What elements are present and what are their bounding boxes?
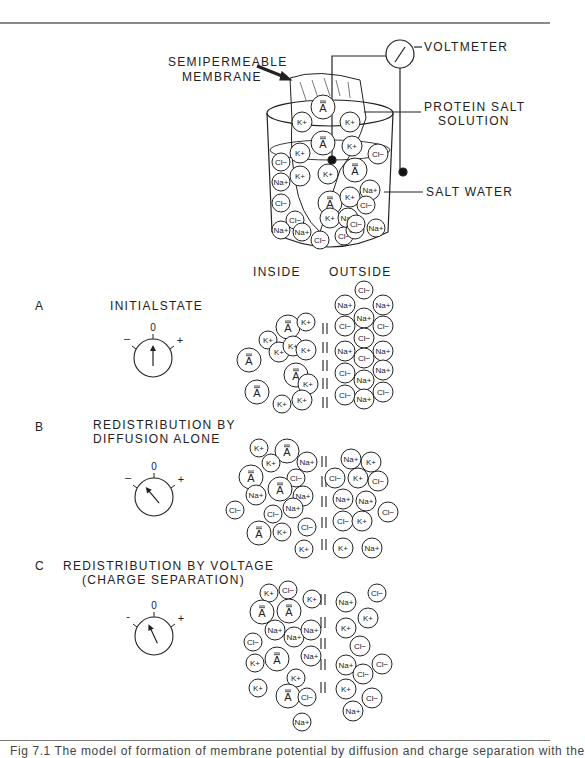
ion-k: K+ <box>336 679 356 699</box>
svg-text:Na+: Na+ <box>338 301 353 310</box>
svg-text:K+: K+ <box>291 674 301 683</box>
svg-text:Na+: Na+ <box>339 661 354 670</box>
voltmeter-needle <box>395 47 405 62</box>
svg-text:Cl−: Cl− <box>275 158 288 167</box>
svg-text:Na+: Na+ <box>338 347 353 356</box>
svg-text:K+: K+ <box>325 214 335 223</box>
svg-text:Cl−: Cl− <box>371 589 384 598</box>
svg-text:A: A <box>273 654 281 666</box>
ion-k: K+ <box>318 164 338 184</box>
svg-text:K+: K+ <box>345 118 355 127</box>
ion-na: Na+ <box>336 592 356 612</box>
svg-text:Cl−: Cl− <box>377 322 390 331</box>
ion-cl: Cl− <box>368 471 388 491</box>
ion-na: Na+ <box>283 498 303 518</box>
ion-a: A <box>245 380 269 404</box>
svg-text:Na+: Na+ <box>363 186 378 195</box>
ion-cl: Cl− <box>311 231 329 249</box>
ion-a: A <box>311 95 335 119</box>
ion-cl: Cl− <box>279 581 297 599</box>
svg-text:Na+: Na+ <box>376 366 391 375</box>
svg-text:Cl−: Cl− <box>366 694 379 703</box>
ion-a: A <box>250 600 274 624</box>
svg-text:K+: K+ <box>301 318 311 327</box>
svg-text:Cl−: Cl− <box>229 506 242 515</box>
barrier-b <box>322 456 326 550</box>
svg-text:Na+: Na+ <box>304 626 319 635</box>
ion-cl: Cl− <box>362 688 382 708</box>
ion-cl: Cl− <box>347 215 365 233</box>
outer-electrode <box>399 168 407 176</box>
svg-text:Na+: Na+ <box>357 314 372 323</box>
ion-cl: Cl− <box>354 348 374 368</box>
panel-a-meter: 0–+ <box>124 322 183 377</box>
svg-text:A: A <box>351 165 359 177</box>
ion-cl: Cl− <box>272 153 290 171</box>
svg-text:Cl−: Cl− <box>382 508 395 517</box>
svg-text:Cl−: Cl− <box>290 474 303 483</box>
svg-text:Na+: Na+ <box>376 347 391 356</box>
svg-text:A: A <box>285 606 293 618</box>
ion-na: Na+ <box>335 341 355 361</box>
ion-cl: Cl− <box>298 688 316 706</box>
ion-k: K+ <box>290 143 310 163</box>
ion-k: K+ <box>333 538 353 558</box>
meter-needle-icon <box>150 345 156 366</box>
svg-text:Na+: Na+ <box>249 491 264 500</box>
svg-text:A: A <box>258 607 266 619</box>
svg-text:Cl−: Cl− <box>301 693 314 702</box>
svg-text:A: A <box>253 387 261 399</box>
beaker-ions: AK+K+AK+K+Cl−Cl−Na+K+K+ANa+Cl−AK+Cl−K+Na… <box>272 95 388 249</box>
svg-text:K+: K+ <box>366 458 376 467</box>
ion-k: K+ <box>352 511 372 531</box>
svg-text:K+: K+ <box>253 684 263 693</box>
svg-text:K+: K+ <box>274 348 284 357</box>
meter-plus-label: + <box>178 473 184 485</box>
panel-c-meter: 0-+ <box>126 600 184 655</box>
ion-cl: Cl− <box>325 468 345 488</box>
svg-text:K+: K+ <box>264 589 274 598</box>
ion-na: Na+ <box>246 485 266 505</box>
ion-cl: Cl− <box>335 316 355 336</box>
svg-text:A: A <box>276 484 284 496</box>
ion-cl: Cl− <box>264 505 282 523</box>
svg-text:Cl−: Cl− <box>339 391 352 400</box>
svg-text:K+: K+ <box>295 172 305 181</box>
svg-text:A: A <box>319 102 327 114</box>
ion-k: K+ <box>290 166 310 186</box>
ion-na: Na+ <box>301 646 321 666</box>
ion-cl: Cl− <box>226 501 244 519</box>
ion-k: K+ <box>358 608 378 628</box>
svg-text:K+: K+ <box>297 396 307 405</box>
ion-na: Na+ <box>343 701 363 721</box>
svg-text:K+: K+ <box>250 659 260 668</box>
svg-text:K+: K+ <box>263 336 273 345</box>
ion-k: K+ <box>260 584 278 602</box>
svg-text:Cl−: Cl− <box>339 322 352 331</box>
svg-text:K+: K+ <box>345 193 355 202</box>
panel-c-ions: K+Cl−K+AANa+Na+Na+Cl−K+ANa+K+K+ACl−Na+Na… <box>244 581 392 731</box>
ion-k: K+ <box>348 468 368 488</box>
ion-na: Na+ <box>272 173 290 191</box>
ion-cl: Cl− <box>244 633 262 651</box>
svg-text:K+: K+ <box>299 545 309 554</box>
svg-text:K+: K+ <box>277 528 287 537</box>
ion-k: K+ <box>320 208 340 228</box>
panel-b-ions: K+AK+Na+ACl−Na+ANa+Cl−Cl−Na+AK+Cl−K+Na+K… <box>226 439 398 558</box>
svg-text:Cl−: Cl− <box>247 638 260 647</box>
ion-na: Na+ <box>293 223 311 241</box>
meter-plus-label: + <box>178 612 184 624</box>
svg-text:Cl−: Cl− <box>301 523 314 532</box>
svg-text:Na+: Na+ <box>300 458 315 467</box>
membrane-barriers <box>321 323 327 693</box>
svg-text:Na+: Na+ <box>295 228 310 237</box>
svg-text:Na+: Na+ <box>304 652 319 661</box>
figure-caption: Fig 7.1 The model of formation of membra… <box>10 744 585 758</box>
ion-na: Na+ <box>373 360 393 380</box>
ion-k: K+ <box>297 313 315 331</box>
ion-cl: Cl− <box>355 281 373 299</box>
svg-text:Na+: Na+ <box>357 376 372 385</box>
svg-text:K+: K+ <box>357 517 367 526</box>
ion-a: A <box>247 521 271 545</box>
